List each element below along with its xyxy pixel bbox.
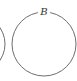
left-partial-circle	[0, 15, 5, 73]
circle-b	[12, 12, 76, 76]
diagram-canvas: B	[0, 0, 77, 81]
circle-b-label: B	[39, 6, 47, 17]
